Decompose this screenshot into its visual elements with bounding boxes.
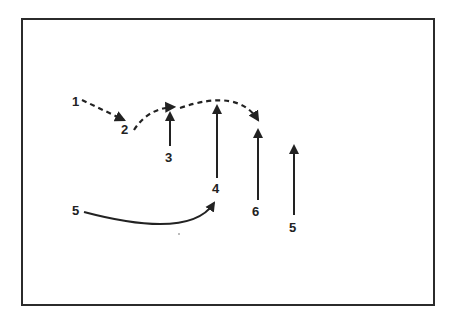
- label-3: 3: [165, 150, 172, 165]
- dashed-arrow-1-to-2: [82, 100, 124, 120]
- speck: [178, 233, 180, 235]
- label-1: 1: [72, 94, 79, 109]
- curved-arrow-5-to-4: [84, 203, 214, 224]
- trajectory-diagram: 1 2 3 4 5 6 5: [0, 0, 455, 328]
- label-4: 4: [212, 181, 220, 196]
- label-5-left: 5: [72, 203, 79, 218]
- label-6: 6: [252, 204, 259, 219]
- dashed-arrow-3-to-6: [180, 100, 258, 120]
- label-5-right: 5: [289, 220, 296, 235]
- label-2: 2: [121, 122, 128, 137]
- dashed-arrow-2-to-3: [134, 107, 174, 130]
